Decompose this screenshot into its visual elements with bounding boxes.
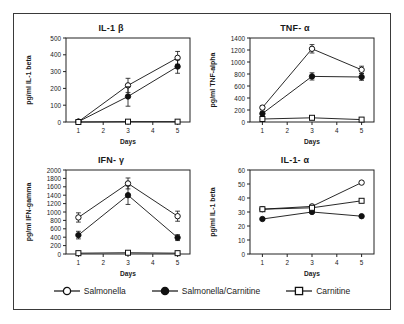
y-tick-label: 1600	[47, 183, 62, 190]
y-tick-label: 600	[50, 225, 61, 232]
y-tick-label: 0	[57, 251, 61, 258]
data-point-filled-circle	[175, 235, 180, 240]
y-axis-label: pg/ml IL-1 beta	[209, 187, 217, 237]
data-point-filled-circle	[125, 193, 130, 198]
y-tick-label: 20	[238, 223, 246, 230]
x-tick-label: 4	[335, 259, 339, 266]
x-tick-label: 3	[126, 127, 130, 134]
x-tick-label: 2	[101, 259, 105, 266]
data-point-filled-circle	[359, 74, 364, 79]
x-tick-label: 5	[360, 127, 364, 134]
y-tick-label: 400	[50, 234, 61, 241]
y-tick-label: 800	[234, 71, 245, 78]
x-tick-label: 2	[285, 259, 289, 266]
data-point-open-circle	[260, 105, 265, 110]
y-tick-label: 1800	[47, 175, 62, 182]
y-tick-label: 0	[241, 251, 245, 258]
data-point-open-square	[126, 250, 131, 255]
y-tick-label: 50	[238, 181, 246, 188]
y-tick-label: 1000	[231, 59, 246, 66]
x-tick-label: 5	[176, 127, 180, 134]
data-point-open-circle	[125, 181, 130, 186]
data-point-open-circle	[359, 180, 364, 185]
x-tick-label: 4	[335, 127, 339, 134]
x-tick-label: 4	[151, 127, 155, 134]
legend-label-salmonella: Salmonella	[84, 287, 126, 296]
panel-grid: IL-1 β 010020030040050012345pg/ml IL-1 b…	[14, 14, 390, 282]
figure-legend: Salmonella Salmonella/Carnitine Carnitin…	[14, 279, 390, 303]
chart-plot-tnfa: 020040060080010001200140012345pg/ml TNF-…	[204, 18, 386, 152]
data-point-filled-circle	[76, 232, 81, 237]
data-point-open-square	[175, 251, 180, 256]
legend-item-carnitine: Carnitine	[286, 285, 350, 297]
data-point-open-circle	[359, 67, 364, 72]
data-point-filled-circle	[260, 216, 265, 221]
data-point-open-circle	[76, 215, 81, 220]
x-tick-label: 5	[176, 259, 180, 266]
x-tick-label: 1	[77, 259, 81, 266]
y-tick-label: 1000	[47, 209, 62, 216]
data-point-open-square	[359, 117, 364, 122]
x-tick-label: 1	[261, 259, 265, 266]
y-tick-label: 600	[234, 83, 245, 90]
y-axis-label: pg/ml TNF-alpha	[209, 52, 217, 107]
x-axis-label: Days	[304, 270, 320, 278]
data-point-open-square	[126, 119, 131, 124]
legend-item-salmonella: Salmonella	[54, 285, 126, 297]
data-point-open-square	[310, 115, 315, 120]
x-axis-label: Days	[304, 138, 320, 146]
data-point-filled-circle	[359, 214, 364, 219]
x-axis-label: Days	[120, 270, 136, 278]
x-tick-label: 2	[285, 127, 289, 134]
figure-frame: IL-1 β 010020030040050012345pg/ml IL-1 b…	[13, 13, 391, 310]
data-point-filled-circle	[175, 64, 180, 69]
data-point-open-square	[76, 120, 81, 125]
y-tick-label: 1400	[47, 192, 62, 199]
y-tick-label: 2000	[47, 167, 62, 174]
chart-panel-il1b: IL-1 β 010020030040050012345pg/ml IL-1 b…	[20, 18, 202, 152]
y-tick-label: 200	[50, 242, 61, 249]
y-tick-label: 10	[238, 237, 246, 244]
chart-panel-ifng: IFN- γ 020040060080010001200140016001800…	[20, 150, 202, 284]
chart-panel-tnfa: TNF- α 020040060080010001200140012345pg/…	[204, 18, 386, 152]
chart-plot-ifng: 0200400600800100012001400160018002000123…	[20, 150, 202, 284]
x-tick-label: 2	[101, 127, 105, 134]
x-tick-label: 3	[126, 259, 130, 266]
data-point-open-square	[359, 198, 364, 203]
chart-plot-il1b: 010020030040050012345pg/ml IL-1 betaDays	[20, 18, 202, 152]
x-tick-label: 1	[261, 127, 265, 134]
data-point-open-square	[175, 119, 180, 124]
filled-circle-icon	[152, 285, 178, 297]
legend-item-salmonella-carnitine: Salmonella/Carnitine	[152, 285, 260, 297]
y-tick-label: 0	[241, 119, 245, 126]
chart-panel-il1a: IL-1- α 010203040506012345pg/ml IL-1 bet…	[204, 150, 386, 284]
chart-plot-il1a: 010203040506012345pg/ml IL-1 betaDays	[204, 150, 386, 284]
data-point-open-circle	[175, 214, 180, 219]
y-tick-label: 500	[50, 35, 61, 42]
x-tick-label: 1	[77, 127, 81, 134]
y-tick-label: 60	[238, 167, 246, 174]
legend-label-carnitine: Carnitine	[316, 287, 350, 296]
y-tick-label: 400	[234, 95, 245, 102]
data-point-open-square	[76, 251, 81, 256]
data-point-open-square	[260, 207, 265, 212]
x-tick-label: 4	[151, 259, 155, 266]
data-point-open-square	[260, 117, 265, 122]
y-tick-label: 30	[238, 209, 246, 216]
y-tick-label: 1200	[231, 47, 246, 54]
y-tick-label: 1200	[47, 200, 62, 207]
data-point-filled-circle	[125, 94, 130, 99]
x-tick-label: 5	[360, 259, 364, 266]
legend-label-salmonella-carnitine: Salmonella/Carnitine	[182, 287, 260, 296]
y-tick-label: 800	[50, 217, 61, 224]
data-point-open-circle	[309, 46, 314, 51]
y-tick-label: 0	[57, 119, 61, 126]
y-tick-label: 40	[238, 195, 246, 202]
data-point-open-square	[310, 205, 315, 210]
y-axis-label: pg/ml IFN-gamma	[25, 183, 33, 242]
y-tick-label: 300	[50, 68, 61, 75]
data-point-filled-circle	[260, 111, 265, 116]
y-tick-label: 200	[50, 85, 61, 92]
x-tick-label: 3	[310, 127, 314, 134]
y-tick-label: 400	[50, 51, 61, 58]
